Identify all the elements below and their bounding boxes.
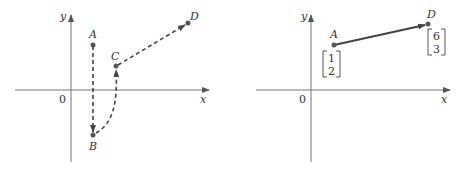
path-c-to-d bbox=[118, 25, 185, 65]
vector-a-x: 1 bbox=[328, 52, 335, 65]
point-d bbox=[426, 22, 431, 27]
point-c-label: C bbox=[111, 50, 120, 63]
point-a bbox=[91, 43, 96, 48]
vector-a-to-d bbox=[334, 25, 425, 45]
y-axis-label: y bbox=[300, 10, 308, 23]
vector-d-y: 3 bbox=[433, 43, 440, 56]
origin-label: 0 bbox=[59, 93, 66, 106]
point-c bbox=[114, 64, 119, 69]
point-b-label: B bbox=[88, 140, 97, 153]
point-d-label: D bbox=[426, 8, 436, 21]
vector-a-coords: 1 2 bbox=[323, 51, 340, 78]
point-a-label: A bbox=[329, 28, 338, 41]
right-panel: y x 0 A D 1 2 6 3 bbox=[256, 8, 450, 162]
x-axis-label: x bbox=[441, 93, 448, 106]
point-a-label: A bbox=[88, 28, 97, 41]
x-axis-label: x bbox=[200, 93, 207, 106]
point-a bbox=[332, 43, 337, 48]
vector-d-x: 6 bbox=[433, 30, 440, 43]
point-d-label: D bbox=[189, 10, 199, 23]
y-axis-label: y bbox=[59, 10, 67, 23]
vector-a-y: 2 bbox=[328, 65, 335, 78]
path-b-to-c bbox=[96, 70, 116, 133]
origin-label: 0 bbox=[299, 93, 306, 106]
left-panel: y x 0 A B C D bbox=[15, 10, 209, 162]
point-b bbox=[91, 133, 96, 138]
diagram-canvas: y x 0 A B C D y x 0 A D 1 2 bbox=[0, 0, 459, 172]
vector-d-coords: 6 3 bbox=[428, 29, 445, 56]
